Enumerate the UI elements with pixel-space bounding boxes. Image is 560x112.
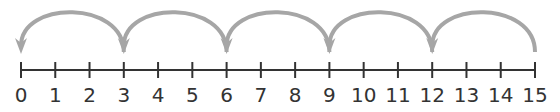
jump-arrow bbox=[118, 12, 227, 54]
jump-arrow bbox=[221, 12, 330, 54]
tick-label: 8 bbox=[280, 82, 310, 108]
tick-label: 11 bbox=[383, 82, 413, 108]
jump-arrow bbox=[426, 12, 535, 54]
tick-label: 7 bbox=[246, 82, 276, 108]
tick-label: 0 bbox=[6, 82, 36, 108]
tick-label: 12 bbox=[417, 82, 447, 108]
tick-label: 15 bbox=[520, 82, 550, 108]
jump-arrows bbox=[15, 12, 535, 54]
jump-arrow bbox=[323, 12, 432, 54]
tick-label: 14 bbox=[486, 82, 516, 108]
tick-label: 5 bbox=[177, 82, 207, 108]
tick-label: 2 bbox=[75, 82, 105, 108]
tick-label: 1 bbox=[40, 82, 70, 108]
tick-label: 4 bbox=[143, 82, 173, 108]
tick-label: 3 bbox=[109, 82, 139, 108]
tick-label: 6 bbox=[212, 82, 242, 108]
tick-label: 9 bbox=[314, 82, 344, 108]
jump-arrow bbox=[15, 12, 124, 54]
tick-label: 13 bbox=[451, 82, 481, 108]
tick-label: 10 bbox=[349, 82, 379, 108]
